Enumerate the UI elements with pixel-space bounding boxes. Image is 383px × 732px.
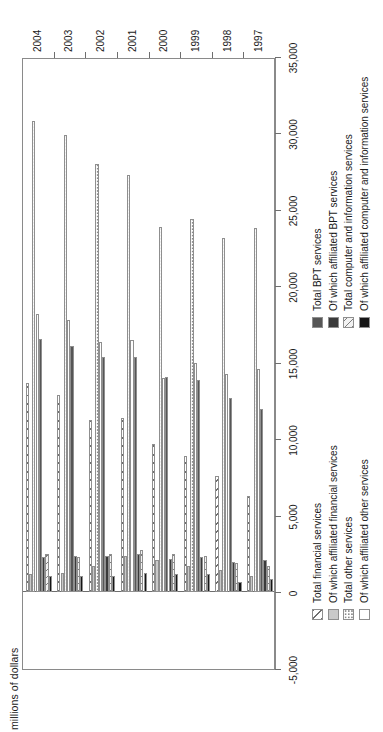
plot-area xyxy=(22,58,275,670)
legend-swatch-cisaff-icon xyxy=(359,317,370,328)
legend-item-finaff: Of which affiliated financial services xyxy=(328,445,339,620)
legend-item-othaff: Of which affiliated other services xyxy=(359,445,370,620)
legend-item-oth: Total other services xyxy=(343,445,354,620)
year-label-1999: 1999 xyxy=(190,30,201,52)
value-tick-mark xyxy=(275,134,281,135)
category-tick-mark xyxy=(54,52,55,58)
legend-swatch-othaff-icon xyxy=(359,609,370,620)
category-tick-mark xyxy=(243,52,244,58)
value-axis-title: millions of dollars xyxy=(8,648,20,730)
value-tick-label: 25,000 xyxy=(288,196,299,227)
value-tick-label: 35,000 xyxy=(288,43,299,74)
legend-swatch-oth-icon xyxy=(343,609,354,620)
bar-bpt-2004 xyxy=(39,339,42,593)
legend-item-cis: Total computer and information services xyxy=(343,77,354,328)
value-tick-label: 30,000 xyxy=(288,119,299,150)
legend-swatch-fin-icon xyxy=(312,609,323,620)
category-tick-mark xyxy=(117,52,118,58)
legend-label: Total financial services xyxy=(312,503,323,603)
value-tick-mark xyxy=(275,210,281,211)
legend-item-bptaff: Of which affiliated BPT services xyxy=(328,77,339,328)
category-axis-line xyxy=(275,58,276,670)
bar-cisaff-2004 xyxy=(49,576,52,593)
category-tick-mark xyxy=(85,52,86,58)
year-label-1997: 1997 xyxy=(253,30,264,52)
value-tick-label: 10,000 xyxy=(288,425,299,456)
bar-fin-2003 xyxy=(57,395,60,592)
legend-swatch-cis-icon xyxy=(343,317,354,328)
value-tick-mark xyxy=(275,287,281,288)
legend-label: Of which affiliated computer and informa… xyxy=(359,77,370,311)
legend-label: Total computer and information services xyxy=(343,134,354,311)
legend-secondary: Total BPT servicesOf which affiliated BP… xyxy=(312,77,374,328)
legend-label: Total other services xyxy=(343,517,354,603)
category-tick-mark xyxy=(180,52,181,58)
legend-item-bpt: Total BPT services xyxy=(312,77,323,328)
value-tick-label: -5,000 xyxy=(288,656,299,684)
year-label-2003: 2003 xyxy=(63,30,74,52)
value-tick-mark xyxy=(275,516,281,517)
value-tick-label: 15,000 xyxy=(288,349,299,380)
legend-swatch-bptaff-icon xyxy=(328,317,339,328)
legend-item-fin: Total financial services xyxy=(312,445,323,620)
year-label-1998: 1998 xyxy=(222,30,233,52)
value-tick-mark xyxy=(275,440,281,441)
bar-cisaff-2002 xyxy=(112,576,115,593)
legend-item-cisaff: Of which affiliated computer and informa… xyxy=(359,77,370,328)
chart-canvas: millions of dollars -5,00005,00010,00015… xyxy=(0,0,383,732)
value-tick-label: 0 xyxy=(288,591,299,597)
bar-cisaff-2000 xyxy=(175,574,178,592)
value-tick-mark xyxy=(275,593,281,594)
category-tick-mark xyxy=(149,52,150,58)
category-tick-mark xyxy=(212,52,213,58)
legend-label: Of which affiliated BPT services xyxy=(328,171,339,311)
year-label-2004: 2004 xyxy=(32,30,43,52)
bar-cisaff-2001 xyxy=(144,573,147,593)
value-tick-label: 5,000 xyxy=(288,504,299,529)
value-tick-mark xyxy=(275,57,281,58)
bar-cisaff-1997 xyxy=(270,579,273,593)
rotated-chart-container: millions of dollars -5,00005,00010,00015… xyxy=(0,0,383,732)
bar-cisaff-2003 xyxy=(80,576,83,593)
value-tick-mark xyxy=(275,363,281,364)
legend-swatch-finaff-icon xyxy=(328,609,339,620)
year-label-2000: 2000 xyxy=(158,30,169,52)
bar-cisaff-1999 xyxy=(207,574,210,592)
legend-label: Of which affiliated financial services xyxy=(328,445,339,603)
year-label-2001: 2001 xyxy=(127,30,138,52)
legend-primary: Total financial servicesOf which affilia… xyxy=(312,445,374,620)
legend-swatch-bpt-icon xyxy=(312,317,323,328)
year-label-2002: 2002 xyxy=(95,30,106,52)
bar-cisaff-1998 xyxy=(238,582,241,593)
bar-fin-2004 xyxy=(26,383,29,593)
legend-label: Total BPT services xyxy=(312,228,323,311)
value-tick-mark xyxy=(275,669,281,670)
legend-label: Of which affiliated other services xyxy=(359,459,370,603)
value-tick-label: 20,000 xyxy=(288,272,299,303)
